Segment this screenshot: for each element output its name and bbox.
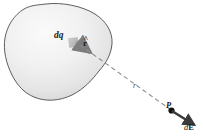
label-dE: dE (184, 123, 194, 132)
label-r-hat: ^r (83, 39, 87, 48)
label-dq: dq (54, 31, 64, 41)
charged-body (4, 3, 112, 100)
figure-canvas: dq ^r r P dE (0, 0, 203, 137)
label-point-p: P (166, 101, 171, 110)
diagram-svg (0, 0, 203, 137)
blob-outline (4, 3, 112, 100)
label-distance-r: r (133, 82, 136, 90)
label-dE-E: E (188, 122, 194, 132)
r-hat-caret: ^ (84, 36, 89, 44)
